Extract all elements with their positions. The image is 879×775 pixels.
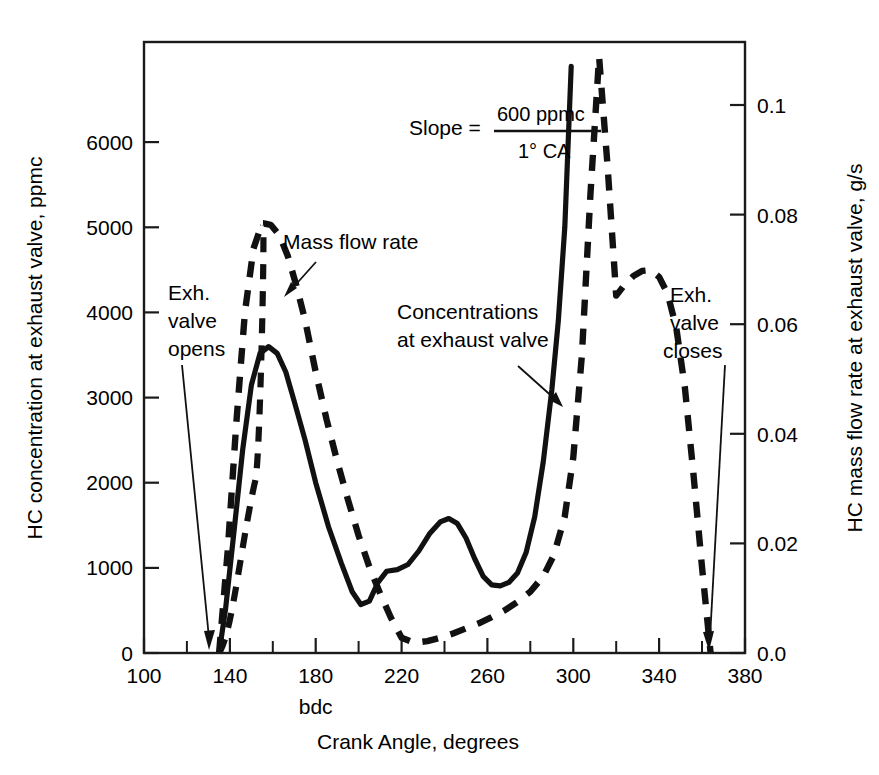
y2tick-label: 0.02 (757, 532, 798, 555)
xtick-label: 260 (470, 664, 505, 687)
ytick-label: 3000 (86, 386, 133, 409)
exh-valve-opens-arrow-line (182, 365, 209, 638)
xtick-label: 180 (298, 664, 333, 687)
y2tick-label: 0.06 (757, 313, 798, 336)
left-axis-title: HC concentration at exhaust valve, ppmc (23, 157, 46, 540)
left-axis-tick-labels: 6000 5000 4000 3000 2000 1000 0 (86, 131, 133, 665)
xtick-label: 340 (642, 664, 677, 687)
right-axis-ticks (730, 105, 745, 653)
exh-valve-closes-line2: valve (670, 311, 719, 334)
y2tick-label: 0.04 (757, 423, 798, 446)
slope-numerator: 600 ppmc (497, 103, 585, 125)
mass-flow-rate-label: Mass flow rate (283, 230, 418, 253)
y2tick-label: 0.1 (757, 94, 786, 117)
right-axis-title: HC mass flow rate at exhaust valve, g/s (843, 164, 866, 533)
y2tick-label: 0.08 (757, 204, 798, 227)
figure-canvas: 6000 5000 4000 3000 2000 1000 0 HC conce… (0, 0, 879, 775)
exh-valve-opens-arrowhead (204, 630, 215, 650)
series-mass-flow-rate-path (219, 57, 710, 653)
ytick-label: 4000 (86, 301, 133, 324)
concentrations-line2: at exhaust valve (397, 328, 549, 351)
x-axis-tick-labels: 100 140 180 220 260 300 340 380 (126, 664, 762, 687)
annotation-concentrations: Concentrations at exhaust valve (397, 300, 563, 407)
annotation-mass-flow-rate: Mass flow rate (283, 230, 418, 297)
slope-denominator: 1° CA (518, 140, 571, 162)
exh-valve-opens-line2: valve (168, 309, 217, 332)
exh-valve-closes-line3: closes (663, 339, 723, 362)
ytick-label: 5000 (86, 216, 133, 239)
chart-svg: 6000 5000 4000 3000 2000 1000 0 HC conce… (0, 0, 879, 775)
ytick-label: 0 (121, 642, 133, 665)
exh-valve-closes-line1: Exh. (670, 283, 712, 306)
xtick-label: 220 (384, 664, 419, 687)
y2tick-label: 0.0 (757, 642, 786, 665)
xtick-label: 300 (556, 664, 591, 687)
ytick-label: 1000 (86, 556, 133, 579)
annotation-exh-valve-opens: Exh. valve opens (168, 281, 225, 650)
left-axis-ticks (144, 142, 159, 653)
exh-valve-closes-arrow-line (710, 365, 725, 638)
annotation-exh-valve-closes: Exh. valve closes (663, 283, 725, 651)
x-axis-title: Crank Angle, degrees (317, 730, 519, 753)
xtick-label: 140 (212, 664, 247, 687)
exh-valve-opens-line1: Exh. (168, 281, 210, 304)
xtick-label: 380 (727, 664, 762, 687)
slope-prefix: Slope = (409, 116, 481, 139)
annotation-slope: Slope = 600 ppmc 1° CA (409, 103, 601, 162)
ytick-label: 6000 (86, 131, 133, 154)
ytick-label: 2000 (86, 471, 133, 494)
concentrations-line1: Concentrations (397, 300, 538, 323)
exh-valve-opens-line3: opens (168, 337, 225, 360)
bdc-label: bdc (299, 695, 333, 718)
xtick-label: 100 (126, 664, 161, 687)
right-axis-tick-labels: 0.1 0.08 0.06 0.04 0.02 0.0 (757, 94, 798, 665)
x-axis-minor-ticks (187, 641, 702, 653)
